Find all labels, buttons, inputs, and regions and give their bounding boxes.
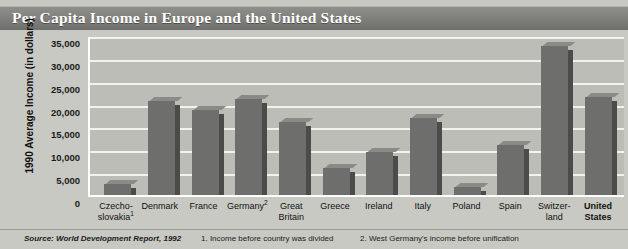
footnote-marker: 1 <box>130 210 134 217</box>
x-label-line-1: United <box>577 201 619 212</box>
x-axis-tick-label: GreatBritain <box>269 201 313 229</box>
x-label-line-1: Italy <box>402 201 444 212</box>
chart-footer: Source: World Development Report, 1992 1… <box>0 229 628 249</box>
x-axis-tick-label: Italy <box>401 201 445 229</box>
x-label-line-2: land <box>533 212 575 223</box>
bar-slot <box>271 37 315 195</box>
plot-area <box>88 37 624 197</box>
y-axis-tick-label: 35,000 <box>51 38 80 49</box>
bar-slot <box>489 37 533 195</box>
bar[interactable] <box>366 152 393 195</box>
x-label-line-1: Greece <box>314 201 356 212</box>
footnote-1: 1. Income before country was divided <box>201 234 334 243</box>
bar-slot <box>533 37 577 195</box>
y-axis-tick-label: 10,000 <box>51 152 80 163</box>
y-axis-tick-label: 15,000 <box>51 129 80 140</box>
x-axis-tick-label: Spain <box>488 201 532 229</box>
x-axis-tick-label: Denmark <box>138 201 182 229</box>
bar-slot <box>183 37 227 195</box>
y-axis-tick-label: 0 <box>75 198 80 209</box>
bar-slot <box>576 37 620 195</box>
bar-slot <box>227 37 271 195</box>
x-axis-tick-label: France <box>182 201 226 229</box>
x-label-line-1: Ireland <box>358 201 400 212</box>
y-axis-tick-label: 5,000 <box>56 175 80 186</box>
page-title: Per Capita Income in Europe and the Unit… <box>12 9 361 27</box>
bar[interactable] <box>410 118 437 195</box>
y-axis-tick-label: 30,000 <box>51 60 80 71</box>
bar-slot <box>358 37 402 195</box>
x-label-line-1: Poland <box>446 201 488 212</box>
footnote-2: 2. West Germany's income before unificat… <box>360 234 519 243</box>
y-axis-tick-label: 20,000 <box>51 106 80 117</box>
bar[interactable] <box>454 187 481 195</box>
bar-chart: 1990 Average Income (in dollars) 35,0003… <box>0 31 628 229</box>
x-label-line-1: Great <box>270 201 312 212</box>
x-axis-tick-label: Czecho-slovakia1 <box>94 201 138 229</box>
bar-series <box>90 37 624 195</box>
bar-slot <box>314 37 358 195</box>
bar[interactable] <box>148 101 175 195</box>
x-axis-tick-labels: Czecho-slovakia1DenmarkFranceGermany2Gre… <box>88 201 624 229</box>
title-banner: Per Capita Income in Europe and the Unit… <box>0 6 628 30</box>
bar[interactable] <box>323 168 350 195</box>
bar[interactable] <box>104 184 131 195</box>
footnote-marker: 2 <box>264 199 268 206</box>
bar-slot <box>140 37 184 195</box>
bar[interactable] <box>585 97 612 195</box>
x-label-line-2: States <box>577 212 619 223</box>
x-axis-tick-label: UnitedStates <box>576 201 620 229</box>
bar-slot <box>402 37 446 195</box>
x-label-line-1: Germany2 <box>226 201 268 212</box>
bar-slot <box>445 37 489 195</box>
y-axis-tick-labels: 35,00030,00025,00020,00015,00010,0005,00… <box>22 37 80 197</box>
x-label-line-2: slovakia1 <box>95 212 137 223</box>
y-axis-tick-label: 25,000 <box>51 83 80 94</box>
x-label-line-2: Britain <box>270 212 312 223</box>
bar[interactable] <box>497 145 524 195</box>
x-axis-tick-label: Poland <box>445 201 489 229</box>
bar[interactable] <box>541 46 568 195</box>
x-label-line-1: Spain <box>489 201 531 212</box>
bar-slot <box>96 37 140 195</box>
x-axis-tick-label: Germany2 <box>225 201 269 229</box>
x-axis-tick-label: Greece <box>313 201 357 229</box>
x-label-line-1: Switzer- <box>533 201 575 212</box>
bar[interactable] <box>279 122 306 195</box>
x-label-line-1: Denmark <box>139 201 181 212</box>
source-note: Source: World Development Report, 1992 <box>24 234 181 243</box>
x-axis-tick-label: Ireland <box>357 201 401 229</box>
x-axis-tick-label: Switzer-land <box>532 201 576 229</box>
bar[interactable] <box>192 110 219 195</box>
x-label-line-1: France <box>183 201 225 212</box>
bar[interactable] <box>235 99 262 195</box>
